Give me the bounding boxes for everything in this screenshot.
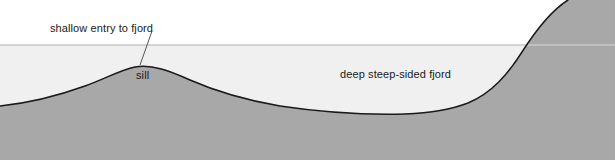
label-sill: sill bbox=[136, 69, 149, 82]
label-shallow-entry-to-fjord: shallow entry to fjord bbox=[50, 22, 153, 35]
fjord-cross-section-diagram: shallow entry to fjord sill deep steep-s… bbox=[0, 0, 615, 160]
label-deep-steep-sided-fjord: deep steep-sided fjord bbox=[340, 68, 451, 81]
